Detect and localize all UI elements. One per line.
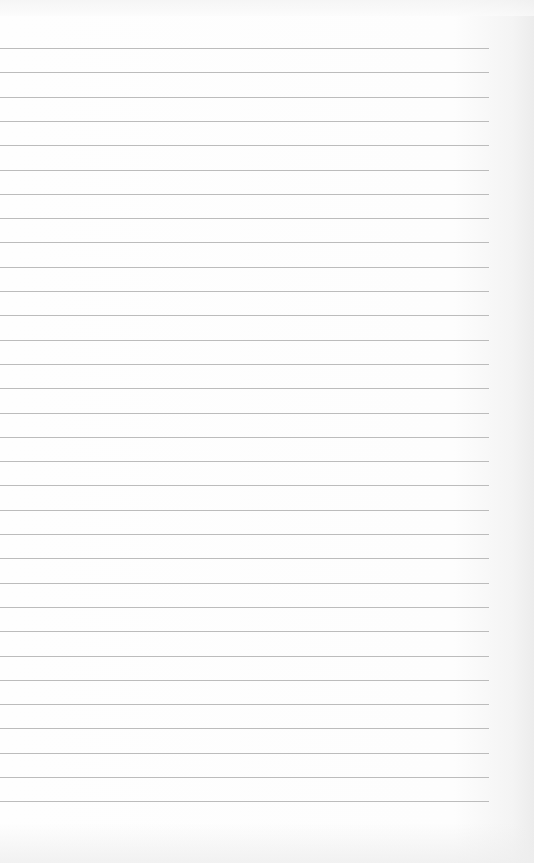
ruled-line <box>0 267 489 268</box>
ruled-line <box>0 48 489 49</box>
ruled-line <box>0 145 489 146</box>
ruled-line <box>0 753 489 754</box>
ruled-line <box>0 704 489 705</box>
ruled-line <box>0 315 489 316</box>
ruled-line <box>0 558 489 559</box>
ruled-line <box>0 437 489 438</box>
ruled-line <box>0 777 489 778</box>
ruled-line <box>0 534 489 535</box>
top-bleed-through <box>0 0 534 16</box>
ruled-line <box>0 72 489 73</box>
ruled-line <box>0 461 489 462</box>
ruled-line <box>0 121 489 122</box>
ruled-line <box>0 728 489 729</box>
ruled-line <box>0 194 489 195</box>
ruled-line <box>0 218 489 219</box>
ruled-line <box>0 510 489 511</box>
ruled-line <box>0 801 489 802</box>
ruled-line <box>0 388 489 389</box>
ruled-line <box>0 485 489 486</box>
ruled-line <box>0 97 489 98</box>
bottom-shading <box>0 823 534 863</box>
ruled-line <box>0 607 489 608</box>
ruled-line <box>0 413 489 414</box>
ruled-line <box>0 340 489 341</box>
ruled-line <box>0 170 489 171</box>
ruled-line <box>0 631 489 632</box>
ruled-line <box>0 242 489 243</box>
ruled-line <box>0 364 489 365</box>
ruled-line <box>0 583 489 584</box>
ruled-line <box>0 291 489 292</box>
lined-paper-page <box>0 0 534 863</box>
ruled-line <box>0 680 489 681</box>
ruled-line <box>0 656 489 657</box>
